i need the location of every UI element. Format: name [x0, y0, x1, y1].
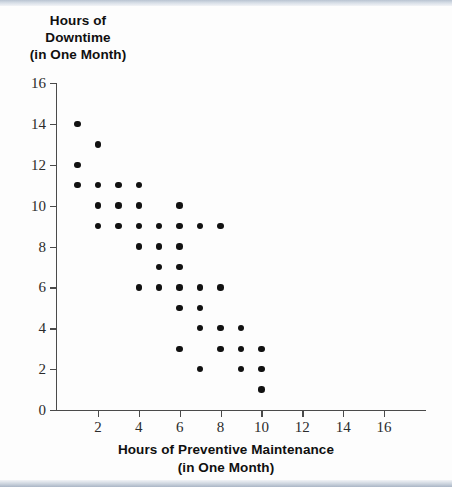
- x-tick-label: 6: [176, 419, 184, 436]
- x-axis-line: [56, 410, 426, 411]
- x-tick-mark: [98, 410, 99, 417]
- y-tick-mark: [50, 410, 57, 411]
- data-point: [74, 182, 80, 188]
- y-tick-label: 8: [39, 238, 47, 255]
- x-tick-label: 10: [254, 419, 269, 436]
- data-point: [197, 223, 203, 229]
- data-point: [197, 366, 203, 372]
- data-point: [238, 346, 244, 352]
- y-tick-mark: [50, 287, 57, 288]
- x-tick-label: 16: [377, 419, 392, 436]
- data-point: [238, 325, 244, 331]
- x-tick-mark: [343, 410, 344, 417]
- data-point: [74, 121, 80, 127]
- data-point: [156, 284, 162, 290]
- y-tick-label: 14: [31, 115, 46, 132]
- plot-area: 0246810121416 246810121416: [57, 83, 384, 410]
- data-point: [176, 223, 182, 229]
- data-point: [197, 325, 203, 331]
- data-point: [176, 346, 182, 352]
- data-point: [176, 305, 182, 311]
- data-point: [74, 162, 80, 168]
- x-tick-mark: [180, 410, 181, 417]
- data-point: [95, 182, 101, 188]
- y-axis-title-line-2: Downtime: [12, 29, 144, 46]
- data-point: [217, 325, 223, 331]
- data-point: [258, 346, 264, 352]
- data-point: [115, 202, 121, 208]
- data-point: [115, 182, 121, 188]
- y-tick-label: 12: [31, 156, 46, 173]
- data-point: [197, 284, 203, 290]
- y-axis-title-line-1: Hours of: [12, 12, 144, 29]
- x-tick-label: 12: [295, 419, 310, 436]
- y-tick-mark: [50, 247, 57, 248]
- data-point: [176, 202, 182, 208]
- x-tick-label: 2: [94, 419, 102, 436]
- y-tick-mark: [50, 165, 57, 166]
- data-point: [136, 182, 142, 188]
- y-tick-mark: [50, 206, 57, 207]
- y-axis-title: Hours of Downtime (in One Month): [12, 12, 144, 63]
- x-tick-label: 8: [217, 419, 225, 436]
- data-point: [136, 202, 142, 208]
- page-top-edge: [0, 0, 452, 6]
- data-point: [136, 223, 142, 229]
- data-point: [115, 223, 121, 229]
- data-point: [95, 202, 101, 208]
- y-tick-label: 4: [39, 320, 47, 337]
- scatter-plot-figure: Hours of Downtime (in One Month) 0246810…: [0, 0, 452, 487]
- data-point: [176, 243, 182, 249]
- data-point: [95, 223, 101, 229]
- data-point: [217, 284, 223, 290]
- y-tick-label: 2: [39, 361, 47, 378]
- y-tick-label: 6: [39, 279, 47, 296]
- data-point: [217, 346, 223, 352]
- data-point: [136, 284, 142, 290]
- y-axis-title-line-3: (in One Month): [12, 46, 144, 63]
- data-point: [156, 223, 162, 229]
- data-point: [95, 141, 101, 147]
- y-tick-label: 16: [31, 75, 46, 92]
- y-tick-label: 10: [31, 197, 46, 214]
- data-point: [176, 284, 182, 290]
- data-point: [176, 264, 182, 270]
- y-tick-mark: [50, 83, 57, 84]
- x-tick-mark: [384, 410, 385, 417]
- y-tick-mark: [50, 328, 57, 329]
- data-point: [136, 243, 142, 249]
- x-axis-title: Hours of Preventive Maintenance (in One …: [0, 441, 452, 477]
- data-point: [156, 264, 162, 270]
- x-tick-mark: [261, 410, 262, 417]
- x-axis-title-line-2: (in One Month): [0, 459, 452, 477]
- x-axis-title-line-1: Hours of Preventive Maintenance: [0, 441, 452, 459]
- y-tick-label: 0: [39, 402, 47, 419]
- x-tick-label: 14: [336, 419, 351, 436]
- data-point: [217, 223, 223, 229]
- y-tick-mark: [50, 369, 57, 370]
- x-tick-mark: [302, 410, 303, 417]
- data-point: [156, 243, 162, 249]
- data-point: [258, 366, 264, 372]
- y-tick-mark: [50, 124, 57, 125]
- x-tick-label: 4: [135, 419, 143, 436]
- x-tick-mark: [221, 410, 222, 417]
- page-bottom-edge: [0, 480, 452, 487]
- data-point: [258, 386, 264, 392]
- data-point: [197, 305, 203, 311]
- data-point: [238, 366, 244, 372]
- x-tick-mark: [139, 410, 140, 417]
